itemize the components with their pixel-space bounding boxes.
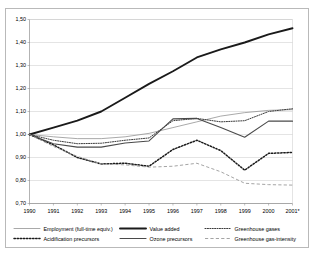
series-line: [30, 135, 293, 171]
series-line: [30, 109, 293, 144]
x-axis-tick-label: 2000: [263, 208, 275, 214]
x-axis-tick-label: 1997: [191, 208, 203, 214]
x-axis-tick-label: 1994: [119, 208, 131, 214]
y-axis-tick-label: 0,70: [16, 200, 27, 206]
chart-figure: 0,700,800,901,001,101,201,301,401,50 199…: [0, 0, 315, 255]
legend-item-label: Greenhouse gas-intensity: [235, 236, 297, 242]
y-axis-tick-label: 0,80: [16, 177, 27, 183]
legend-item-label: Employment (full-time equiv.): [44, 226, 114, 232]
y-axis-tick-label: 1,30: [16, 62, 27, 68]
y-axis-ticks-group: 0,700,800,901,001,101,201,301,401,50: [16, 16, 30, 206]
legend-item-label: Acidification precursors: [44, 236, 100, 242]
legend-item-label: Greenhouse gases: [235, 226, 281, 232]
x-axis-tick-label: 1990: [24, 208, 36, 214]
x-axis-ticks-group: 1990199119921993199419951996199719981999…: [24, 204, 301, 214]
line-chart-canvas: 0,700,800,901,001,101,201,301,401,50 199…: [0, 0, 315, 255]
legend-item-label: Value added: [150, 226, 180, 232]
series-line: [30, 135, 293, 186]
x-axis-tick-label: 1992: [71, 208, 83, 214]
series-line: [30, 28, 293, 134]
y-axis-tick-label: 1,50: [16, 16, 27, 22]
x-axis-tick-label: 1993: [95, 208, 107, 214]
x-axis-tick-label: 2001*: [285, 208, 300, 214]
legend-group: Employment (full-time equiv.)Value added…: [14, 226, 296, 242]
y-axis-tick-label: 1,20: [16, 85, 27, 91]
y-axis-tick-label: 1,10: [16, 108, 27, 114]
x-axis-tick-label: 1998: [215, 208, 227, 214]
y-axis-tick-label: 0,90: [16, 154, 27, 160]
x-axis-tick-label: 1996: [167, 208, 179, 214]
data-series-group: [30, 28, 293, 185]
x-axis-tick-label: 1995: [143, 208, 155, 214]
legend-item-label: Ozone precursors: [150, 236, 193, 242]
y-axis-tick-label: 1,40: [16, 39, 27, 45]
y-axis-tick-label: 1,00: [16, 131, 27, 137]
x-axis-tick-label: 1999: [239, 208, 251, 214]
x-axis-tick-label: 1991: [47, 208, 59, 214]
